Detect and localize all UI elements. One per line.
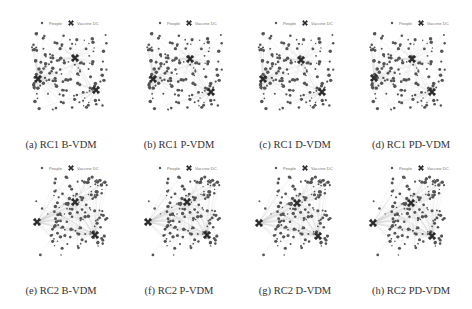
subfigure-caption: (d) RC1 PD-VDM	[352, 139, 470, 150]
network-plot: PeopleVaccine DC	[120, 0, 238, 120]
people-points	[369, 32, 446, 111]
people-legend-label: People	[399, 166, 413, 171]
network-plot: PeopleVaccine DC	[120, 155, 238, 270]
people-legend-label: People	[49, 166, 63, 171]
people-legend-label: People	[167, 166, 181, 171]
subfigure-c: PeopleVaccine DC(c) RC1 D-VDM	[236, 0, 354, 150]
subfigure-a: PeopleVaccine DC(a) RC1 B-VDM	[2, 0, 120, 150]
vaccine-dc-legend-label: Vaccine DC	[427, 21, 449, 26]
people-legend-label: People	[283, 21, 297, 26]
vaccine-dc-legend-label: Vaccine DC	[77, 21, 99, 26]
vaccine-dc-x-icon	[255, 219, 263, 227]
assignment-edges	[32, 33, 106, 110]
people-legend-dot-icon	[159, 167, 161, 169]
network-plot: PeopleVaccine DC	[236, 155, 354, 270]
plot-legend: PeopleVaccine DC	[391, 165, 449, 171]
subfigure-caption: (h) RC2 PD-VDM	[352, 285, 470, 296]
people-legend-label: People	[49, 21, 63, 26]
vaccine-dc-legend-x-icon	[68, 165, 74, 171]
plot-legend: PeopleVaccine DC	[275, 165, 333, 171]
vaccine-dc-legend-x-icon	[186, 165, 192, 171]
assignment-edges	[370, 33, 444, 110]
vaccine-dc-legend-x-icon	[302, 20, 308, 26]
people-legend-label: People	[167, 21, 181, 26]
subfigure-caption: (a) RC1 B-VDM	[2, 139, 120, 150]
people-legend-dot-icon	[275, 22, 277, 24]
subfigure-h: PeopleVaccine DC(h) RC2 PD-VDM	[352, 155, 470, 305]
vaccine-dc-legend-label: Vaccine DC	[195, 21, 217, 26]
subfigure-b: PeopleVaccine DC(b) RC1 P-VDM	[120, 0, 238, 150]
subfigure-caption: (g) RC2 D-VDM	[236, 285, 354, 296]
subfigure-caption: (c) RC1 D-VDM	[236, 139, 354, 150]
plot-legend: PeopleVaccine DC	[41, 165, 99, 171]
vaccine-dc-legend-x-icon	[418, 20, 424, 26]
network-plot: PeopleVaccine DC	[352, 155, 470, 270]
people-legend-dot-icon	[41, 167, 43, 169]
subfigure-f: PeopleVaccine DC(f) RC2 P-VDM	[120, 155, 238, 305]
subfigure-e: PeopleVaccine DC(e) RC2 B-VDM	[2, 155, 120, 305]
subfigure-caption: (f) RC2 P-VDM	[120, 285, 238, 296]
vaccine-dc-legend-x-icon	[302, 165, 308, 171]
plot-legend: PeopleVaccine DC	[391, 20, 449, 26]
assignment-edges	[259, 33, 333, 110]
plot-legend: PeopleVaccine DC	[159, 165, 217, 171]
subfigure-g: PeopleVaccine DC(g) RC2 D-VDM	[236, 155, 354, 305]
people-legend-dot-icon	[391, 167, 393, 169]
people-legend-dot-icon	[391, 22, 393, 24]
vaccine-dc-legend-x-icon	[68, 20, 74, 26]
people-legend-dot-icon	[275, 167, 277, 169]
people-legend-label: People	[399, 21, 413, 26]
vaccine-dc-legend-label: Vaccine DC	[311, 166, 333, 171]
network-plot: PeopleVaccine DC	[352, 0, 470, 120]
plot-legend: PeopleVaccine DC	[159, 20, 217, 26]
people-legend-dot-icon	[41, 22, 43, 24]
subfigure-d: PeopleVaccine DC(d) RC1 PD-VDM	[352, 0, 470, 150]
assignment-edges	[147, 33, 221, 110]
network-plot: PeopleVaccine DC	[2, 155, 120, 270]
subfigure-caption: (b) RC1 P-VDM	[120, 139, 238, 150]
vaccine-dc-legend-x-icon	[186, 20, 192, 26]
vaccine-dc-x-icon	[369, 219, 377, 227]
vaccine-dc-legend-label: Vaccine DC	[195, 166, 217, 171]
people-legend-label: People	[283, 166, 297, 171]
subfigure-caption: (e) RC2 B-VDM	[2, 285, 120, 296]
plot-legend: PeopleVaccine DC	[41, 20, 99, 26]
network-plot: PeopleVaccine DC	[2, 0, 120, 120]
vaccine-dc-legend-label: Vaccine DC	[427, 166, 449, 171]
people-legend-dot-icon	[159, 22, 161, 24]
network-plot: PeopleVaccine DC	[236, 0, 354, 120]
plot-legend: PeopleVaccine DC	[275, 20, 333, 26]
vaccine-dc-legend-x-icon	[418, 165, 424, 171]
vaccine-dc-legend-label: Vaccine DC	[77, 166, 99, 171]
vaccine-dc-legend-label: Vaccine DC	[311, 21, 333, 26]
